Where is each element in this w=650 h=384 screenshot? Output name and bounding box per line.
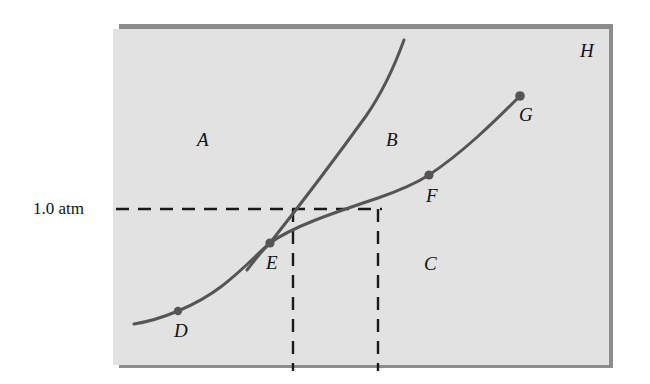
- point-label-f: F: [426, 186, 438, 205]
- region-label-h: H: [580, 41, 594, 60]
- point-label-g: G: [519, 105, 533, 124]
- region-label-a: A: [197, 130, 209, 149]
- phase-diagram-figure: 1.0 atm A B C H D E F G: [0, 0, 650, 384]
- plot-canvas: [0, 0, 650, 384]
- region-label-b: B: [386, 130, 398, 149]
- region-label-c: C: [424, 254, 437, 273]
- point-marker-G: [515, 91, 525, 101]
- point-label-e: E: [266, 253, 278, 272]
- curve-steep-boundary: [247, 40, 404, 270]
- point-marker-F: [424, 170, 433, 179]
- point-marker-D: [174, 307, 182, 315]
- point-marker-E: [265, 238, 274, 247]
- pressure-axis-label: 1.0 atm: [33, 200, 84, 217]
- point-label-d: D: [174, 321, 188, 340]
